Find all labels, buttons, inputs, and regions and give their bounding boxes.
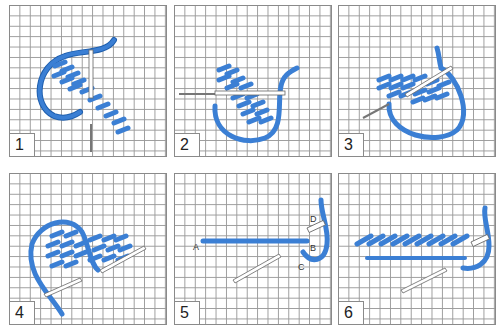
step-number: 6 bbox=[339, 301, 364, 324]
needle-icon bbox=[89, 50, 93, 98]
step-number: 5 bbox=[175, 301, 200, 324]
step-number: 1 bbox=[10, 133, 35, 156]
point-label-c: C bbox=[298, 262, 305, 272]
step-panel-5: A B C D 5 bbox=[174, 173, 332, 325]
point-label-d: D bbox=[310, 214, 317, 224]
step-panel-1: 1 bbox=[9, 5, 167, 157]
step-panel-6: 6 bbox=[338, 173, 496, 325]
step-panel-4: 4 bbox=[9, 173, 167, 325]
step-number: 2 bbox=[175, 133, 200, 156]
point-label-b: B bbox=[310, 243, 316, 253]
needle-icon bbox=[215, 91, 285, 95]
step-panel-3: 3 bbox=[338, 5, 496, 157]
point-label-a: A bbox=[193, 242, 199, 252]
needle-icon bbox=[44, 278, 82, 297]
step-number: 3 bbox=[339, 133, 364, 156]
step-number: 4 bbox=[10, 301, 35, 324]
step-panel-2: 2 bbox=[174, 5, 332, 157]
